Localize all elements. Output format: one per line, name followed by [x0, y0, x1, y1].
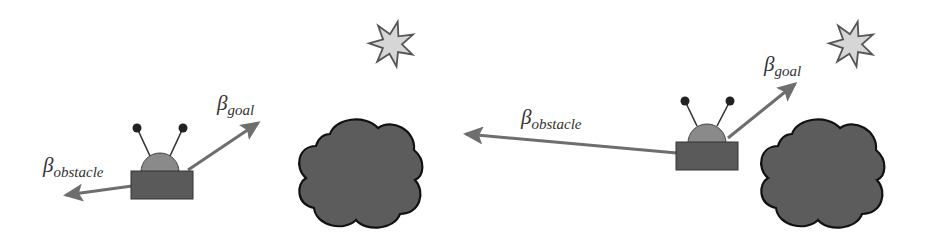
goal-star-icon [369, 22, 413, 67]
obstacle-cloud-icon [299, 119, 422, 227]
robot-icon [676, 97, 738, 171]
obstacle-vector-arrow [66, 186, 132, 195]
goal-vector-arrow [188, 123, 258, 170]
robot-icon [131, 124, 193, 200]
obstacle-cloud-icon [761, 119, 884, 227]
behavior-diagram: βgoal βobstacle βgoal [0, 0, 925, 242]
goal-star-icon [829, 22, 873, 67]
goal-vector-arrow [728, 84, 795, 138]
scene-left: βgoal βobstacle [42, 22, 422, 228]
goal-label: βgoal [216, 91, 254, 118]
obstacle-vector-arrow [466, 134, 677, 153]
obstacle-label: βobstacle [42, 153, 104, 180]
scene-right: βgoal βobstacle [466, 22, 884, 228]
obstacle-label: βobstacle [520, 105, 582, 132]
goal-label: βgoal [763, 52, 801, 79]
